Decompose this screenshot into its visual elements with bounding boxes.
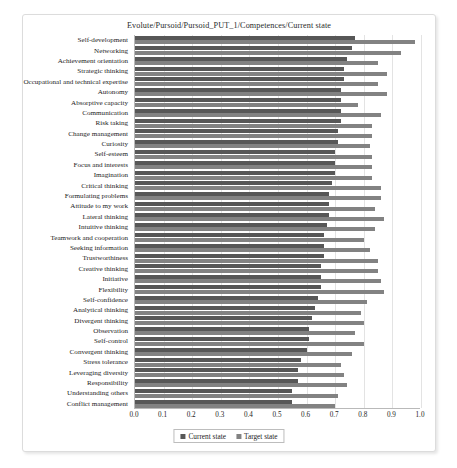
bar-group[interactable] bbox=[135, 367, 420, 377]
bar-group[interactable] bbox=[135, 399, 420, 409]
bar-group[interactable] bbox=[135, 139, 420, 149]
bar-current-state[interactable] bbox=[135, 244, 324, 248]
bar-current-state[interactable] bbox=[135, 161, 335, 165]
bar-current-state[interactable] bbox=[135, 88, 341, 92]
bar-group[interactable] bbox=[135, 212, 420, 222]
bar-target-state[interactable] bbox=[135, 82, 378, 86]
bar-target-state[interactable] bbox=[135, 72, 387, 76]
bar-current-state[interactable] bbox=[135, 285, 321, 289]
bar-current-state[interactable] bbox=[135, 46, 352, 50]
bar-target-state[interactable] bbox=[135, 134, 372, 138]
bar-current-state[interactable] bbox=[135, 254, 324, 258]
bar-current-state[interactable] bbox=[135, 389, 292, 393]
bar-current-state[interactable] bbox=[135, 264, 321, 268]
bar-group[interactable] bbox=[135, 316, 420, 326]
bar-current-state[interactable] bbox=[135, 316, 312, 320]
bar-current-state[interactable] bbox=[135, 275, 321, 279]
bar-target-state[interactable] bbox=[135, 196, 381, 200]
bar-target-state[interactable] bbox=[135, 352, 352, 356]
bar-group[interactable] bbox=[135, 87, 420, 97]
bar-target-state[interactable] bbox=[135, 342, 364, 346]
bar-target-state[interactable] bbox=[135, 363, 341, 367]
bar-target-state[interactable] bbox=[135, 404, 335, 408]
bar-current-state[interactable] bbox=[135, 306, 315, 310]
bar-target-state[interactable] bbox=[135, 373, 344, 377]
bar-target-state[interactable] bbox=[135, 113, 381, 117]
bar-target-state[interactable] bbox=[135, 259, 378, 263]
bar-group[interactable] bbox=[135, 336, 420, 346]
bar-current-state[interactable] bbox=[135, 358, 301, 362]
bar-group[interactable] bbox=[135, 253, 420, 263]
bar-current-state[interactable] bbox=[135, 348, 307, 352]
bar-target-state[interactable] bbox=[135, 290, 384, 294]
bar-target-state[interactable] bbox=[135, 176, 372, 180]
bar-group[interactable] bbox=[135, 129, 420, 139]
bar-group[interactable] bbox=[135, 191, 420, 201]
bar-current-state[interactable] bbox=[135, 202, 329, 206]
bar-group[interactable] bbox=[135, 274, 420, 284]
bar-group[interactable] bbox=[135, 108, 420, 118]
bar-group[interactable] bbox=[135, 180, 420, 190]
bar-target-state[interactable] bbox=[135, 279, 381, 283]
bar-target-state[interactable] bbox=[135, 103, 358, 107]
bar-current-state[interactable] bbox=[135, 213, 329, 217]
bar-group[interactable] bbox=[135, 56, 420, 66]
bar-current-state[interactable] bbox=[135, 337, 309, 341]
bar-current-state[interactable] bbox=[135, 109, 341, 113]
bar-target-state[interactable] bbox=[135, 269, 378, 273]
bar-group[interactable] bbox=[135, 66, 420, 76]
bar-current-state[interactable] bbox=[135, 233, 324, 237]
bar-current-state[interactable] bbox=[135, 119, 341, 123]
bar-target-state[interactable] bbox=[135, 383, 347, 387]
bar-current-state[interactable] bbox=[135, 77, 344, 81]
bar-target-state[interactable] bbox=[135, 155, 372, 159]
bar-target-state[interactable] bbox=[135, 321, 364, 325]
bar-target-state[interactable] bbox=[135, 217, 384, 221]
bar-group[interactable] bbox=[135, 232, 420, 242]
bar-current-state[interactable] bbox=[135, 181, 332, 185]
bar-current-state[interactable] bbox=[135, 192, 329, 196]
bar-current-state[interactable] bbox=[135, 171, 335, 175]
bar-group[interactable] bbox=[135, 160, 420, 170]
bar-target-state[interactable] bbox=[135, 144, 370, 148]
bar-group[interactable] bbox=[135, 264, 420, 274]
bar-target-state[interactable] bbox=[135, 227, 375, 231]
bar-group[interactable] bbox=[135, 35, 420, 45]
bar-group[interactable] bbox=[135, 357, 420, 367]
bar-current-state[interactable] bbox=[135, 296, 318, 300]
bar-target-state[interactable] bbox=[135, 248, 370, 252]
bar-target-state[interactable] bbox=[135, 165, 372, 169]
bar-target-state[interactable] bbox=[135, 40, 415, 44]
legend-item-current-state[interactable]: Current state bbox=[180, 432, 226, 441]
bar-group[interactable] bbox=[135, 388, 420, 398]
bar-target-state[interactable] bbox=[135, 394, 338, 398]
bar-target-state[interactable] bbox=[135, 61, 378, 65]
bar-target-state[interactable] bbox=[135, 311, 361, 315]
bar-group[interactable] bbox=[135, 222, 420, 232]
bar-target-state[interactable] bbox=[135, 92, 387, 96]
bar-target-state[interactable] bbox=[135, 51, 401, 55]
bar-group[interactable] bbox=[135, 347, 420, 357]
bar-group[interactable] bbox=[135, 45, 420, 55]
bar-target-state[interactable] bbox=[135, 331, 355, 335]
bar-group[interactable] bbox=[135, 305, 420, 315]
bar-group[interactable] bbox=[135, 326, 420, 336]
bar-target-state[interactable] bbox=[135, 300, 367, 304]
bar-group[interactable] bbox=[135, 243, 420, 253]
bar-target-state[interactable] bbox=[135, 207, 375, 211]
legend-item-target-state[interactable]: Target state bbox=[236, 432, 278, 441]
chart-legend[interactable]: Current state Target state bbox=[173, 429, 284, 443]
bar-group[interactable] bbox=[135, 284, 420, 294]
bar-current-state[interactable] bbox=[135, 67, 344, 71]
bar-target-state[interactable] bbox=[135, 238, 364, 242]
bar-current-state[interactable] bbox=[135, 129, 338, 133]
bar-current-state[interactable] bbox=[135, 400, 292, 404]
bar-group[interactable] bbox=[135, 201, 420, 211]
bar-group[interactable] bbox=[135, 378, 420, 388]
bar-group[interactable] bbox=[135, 170, 420, 180]
bar-current-state[interactable] bbox=[135, 327, 309, 331]
bar-current-state[interactable] bbox=[135, 140, 338, 144]
bar-target-state[interactable] bbox=[135, 186, 381, 190]
bar-group[interactable] bbox=[135, 118, 420, 128]
bar-group[interactable] bbox=[135, 149, 420, 159]
